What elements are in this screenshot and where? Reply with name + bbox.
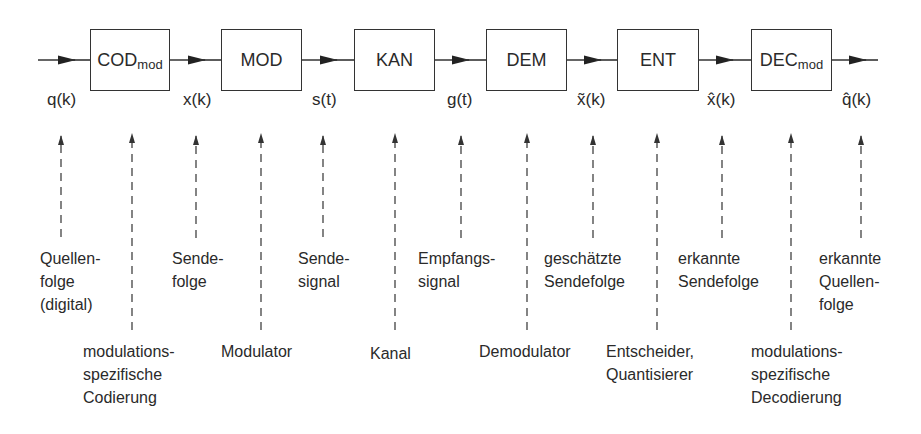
block-label: ENT — [640, 50, 676, 71]
block-ent: ENT — [617, 29, 699, 91]
signal-q: q(k) — [47, 90, 76, 110]
block-dem: DEM — [486, 29, 567, 91]
label-erkannte-sendefolge: erkannte Sendefolge — [678, 247, 759, 293]
label-sendesignal: Sende- signal — [298, 247, 350, 293]
block-subscript: mod — [137, 57, 162, 72]
dashed-pointer-arrows — [61, 134, 861, 330]
block-label: DEC — [760, 50, 798, 71]
label-modulationsspezifische-codierung: modulations- spezifische Codierung — [83, 340, 175, 409]
label-sendefolge: Sende- folge — [172, 247, 224, 293]
block-label: KAN — [376, 50, 413, 71]
block-label: MOD — [241, 50, 283, 71]
signal-g: g(t) — [447, 90, 473, 110]
label-kanal: Kanal — [370, 342, 411, 365]
label-modulator: Modulator — [221, 340, 292, 363]
block-label: COD — [97, 50, 137, 71]
signal-q-hat: q̂(k) — [842, 90, 871, 110]
signal-x: x(k) — [183, 90, 211, 110]
label-entscheider-quantisierer: Entscheider, Quantisierer — [606, 340, 694, 386]
signal-s: s(t) — [312, 90, 337, 110]
block-kan: KAN — [354, 29, 435, 91]
label-modulationsspezifische-decodierung: modulations- spezifische Decodierung — [751, 340, 843, 409]
signal-x-hat: x̂(k) — [707, 90, 735, 110]
label-geschaetzte-sendefolge: geschätzte Sendefolge — [544, 247, 625, 293]
block-cod-mod: CODmod — [90, 29, 170, 91]
block-mod: MOD — [221, 29, 302, 91]
signal-x-tilde: x̃(k) — [577, 90, 605, 110]
communication-chain-diagram: CODmod MOD KAN DEM ENT DECmod q(k) x(k) … — [0, 0, 921, 434]
label-empfangssignal: Empfangs- signal — [418, 247, 495, 293]
block-label: DEM — [507, 50, 547, 71]
block-subscript: mod — [798, 57, 823, 72]
label-erkannte-quellenfolge: erkannte Quellen- folge — [819, 247, 881, 316]
label-quellenfolge: Quellen- folge (digital) — [40, 247, 100, 316]
block-dec-mod: DECmod — [751, 29, 832, 91]
label-demodulator: Demodulator — [479, 340, 571, 363]
